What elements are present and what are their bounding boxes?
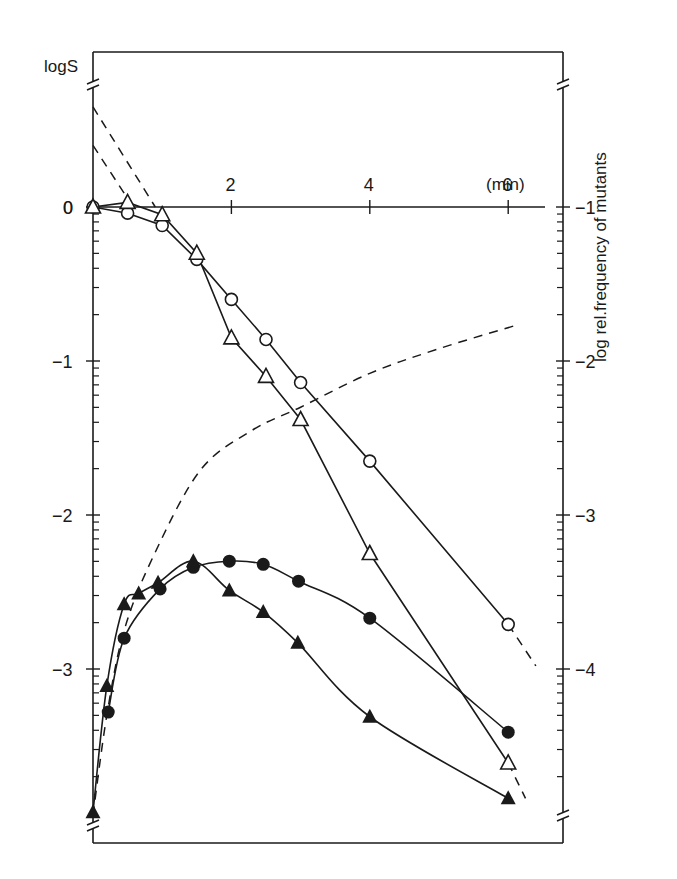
marker-open-circle: [364, 455, 376, 467]
y-left-tick-label: −1: [52, 352, 73, 372]
x-tick-label: 4: [364, 175, 374, 195]
marker-open-triangle: [224, 330, 239, 344]
y-right-tick-label: −3: [575, 506, 596, 526]
marker-filled-circle: [257, 558, 270, 571]
marker-filled-triangle: [362, 709, 377, 723]
marker-open-circle: [295, 377, 307, 389]
line-filled-circle: [108, 561, 508, 732]
marker-filled-circle: [502, 726, 515, 739]
y-left-tick-label: −3: [52, 660, 73, 680]
axes: 2460−1−2−3−1−2−3−40: [52, 52, 596, 843]
series-lines: [93, 202, 508, 812]
dashed-extrapolation-circles-tail: [508, 624, 536, 666]
marker-filled-circle: [292, 575, 305, 588]
marker-open-triangle: [155, 207, 170, 221]
x-tick-label: 2: [225, 175, 235, 195]
marker-filled-triangle: [117, 596, 132, 610]
chart: 2460−1−2−3−1−2−3−40 logS (min) log rel.f…: [0, 0, 677, 879]
x-axis-unit-label: (min): [486, 175, 525, 194]
marker-filled-triangle: [86, 804, 101, 818]
marker-filled-circle: [363, 612, 376, 625]
marker-filled-triangle: [131, 586, 146, 600]
y-axis-label-left: logS: [44, 57, 78, 76]
origin-label: 0: [63, 198, 73, 218]
marker-filled-circle: [118, 632, 131, 645]
y-left-tick-label: −2: [52, 506, 73, 526]
marker-filled-triangle: [151, 575, 166, 589]
marker-open-circle: [260, 333, 272, 345]
marker-open-triangle: [362, 546, 377, 560]
dashed-theoretical-mutant-curve: [93, 326, 515, 816]
series-markers: [86, 194, 516, 818]
marker-open-triangle: [120, 194, 135, 208]
marker-open-circle: [225, 293, 237, 305]
y-axis-label-right: log rel.frequency of mutants: [591, 152, 610, 362]
marker-filled-triangle: [501, 790, 516, 804]
line-filled-triangle: [93, 561, 508, 812]
marker-filled-circle: [223, 555, 236, 568]
marker-open-circle: [502, 618, 514, 630]
y-right-tick-label: −4: [575, 660, 596, 680]
marker-open-triangle: [501, 755, 516, 769]
marker-filled-triangle: [256, 604, 271, 618]
marker-filled-circle: [102, 706, 115, 719]
marker-filled-triangle: [186, 553, 201, 567]
marker-filled-triangle: [222, 582, 237, 596]
